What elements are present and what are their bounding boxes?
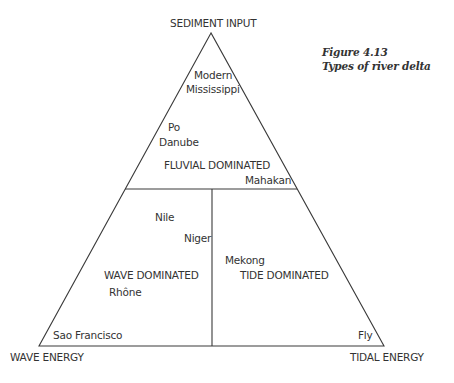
delta-label-nile: Nile bbox=[155, 212, 174, 223]
region-label-tide: TIDE DOMINATED bbox=[240, 270, 329, 281]
delta-label-fly: Fly bbox=[358, 330, 373, 341]
wave-energy-label: WAVE ENERGY bbox=[10, 352, 84, 363]
delta-label-mississippi: Mississippi bbox=[186, 84, 240, 95]
figure-title: Types of river delta bbox=[322, 59, 431, 73]
delta-label-danube: Danube bbox=[159, 137, 199, 148]
delta-label-mahakan: Mahakan bbox=[245, 175, 291, 186]
delta-label-mekong: Mekong bbox=[225, 255, 265, 266]
region-label-fluvial: FLUVIAL DOMINATED bbox=[164, 160, 270, 171]
figure-number: Figure 4.13 bbox=[322, 45, 388, 59]
delta-label-rhone: Rhône bbox=[109, 287, 142, 298]
delta-label-niger: Niger bbox=[184, 233, 211, 244]
tidal-energy-label: TIDAL ENERGY bbox=[350, 352, 424, 363]
delta-label-modern: Modern bbox=[194, 70, 232, 81]
delta-label-sao-francisco: Sao Francisco bbox=[53, 330, 122, 341]
sediment-input-label: SEDIMENT INPUT bbox=[170, 18, 256, 29]
delta-label-po: Po bbox=[168, 122, 180, 133]
region-label-wave: WAVE DOMINATED bbox=[104, 270, 199, 281]
